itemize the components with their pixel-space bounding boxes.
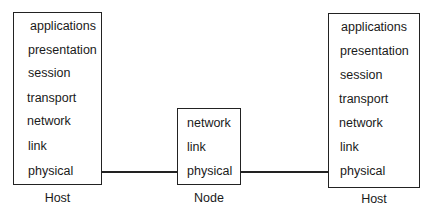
right-host-layer-link: link [340, 140, 359, 154]
node-layer-link: link [187, 140, 206, 154]
link-left-host-to-node [101, 171, 178, 173]
node-layer-network: network [187, 116, 231, 130]
left-host-layer-session: session [28, 66, 70, 80]
right-host-layer-physical: physical [340, 164, 385, 178]
right-host-layer-presentation: presentation [340, 44, 409, 58]
right-host-layer-network: network [339, 116, 383, 130]
node-layer-physical: physical [187, 164, 232, 178]
right-host-caption: Host [328, 192, 420, 206]
left-host-layer-network: network [27, 114, 71, 128]
node-caption: Node [177, 191, 241, 205]
left-host-layer-presentation: presentation [28, 43, 97, 57]
link-node-to-right-host [240, 171, 329, 173]
right-host-layer-transport: transport [339, 92, 388, 106]
left-host-layer-applications: applications [30, 19, 96, 33]
left-host-layer-transport: transport [27, 91, 76, 105]
left-host-layer-physical: physical [28, 164, 73, 178]
right-host-layer-applications: applications [341, 20, 407, 34]
left-host-layer-link: link [28, 139, 47, 153]
right-host-layer-session: session [340, 68, 382, 82]
left-host-caption: Host [13, 191, 102, 205]
